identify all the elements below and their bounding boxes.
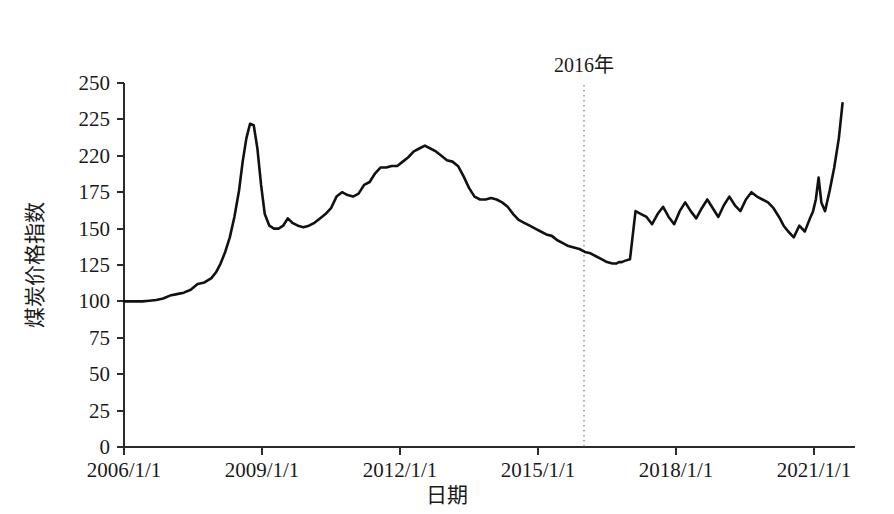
y-tick-label: 225 [79, 107, 111, 131]
y-tick-label: 150 [79, 217, 111, 241]
y-tick-label: 250 [79, 71, 111, 95]
y-tick-label: 175 [79, 180, 111, 204]
y-tick-label: 220 [79, 144, 111, 168]
y-tick-label: 0 [100, 435, 111, 459]
series-line-coal-price-index [124, 103, 843, 301]
x-axis-title: 日期 [426, 483, 468, 507]
x-tick-label: 2015/1/1 [501, 458, 576, 482]
y-axis-ticks: 0255075100125150175220225250 [79, 71, 125, 459]
x-tick-label: 2021/1/1 [777, 458, 852, 482]
year-2016-marker-label: 2016年 [554, 54, 614, 76]
x-tick-label: 2012/1/1 [363, 458, 438, 482]
x-tick-label: 2009/1/1 [225, 458, 300, 482]
y-tick-label: 75 [89, 326, 110, 350]
y-axis-title: 煤炭价格指数 [23, 202, 47, 328]
y-tick-label: 50 [89, 362, 110, 386]
x-axis-ticks: 2006/1/12009/1/12012/1/12015/1/12018/1/1… [87, 447, 852, 482]
y-tick-label: 125 [79, 253, 111, 277]
y-tick-label: 100 [79, 289, 111, 313]
chart-canvas: 0255075100125150175220225250 2006/1/1200… [0, 0, 894, 514]
x-tick-label: 2006/1/1 [87, 458, 162, 482]
x-tick-label: 2018/1/1 [639, 458, 714, 482]
coal-price-index-chart: 0255075100125150175220225250 2006/1/1200… [0, 0, 894, 514]
y-tick-label: 25 [89, 399, 110, 423]
